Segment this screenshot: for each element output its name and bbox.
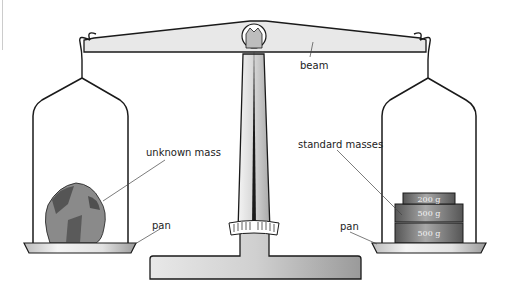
label-pan-right: pan <box>340 222 359 232</box>
base <box>150 231 361 279</box>
unknown-mass-rock <box>45 183 105 243</box>
left-pan <box>24 243 136 253</box>
balance-diagram: 200 g 500 g 500 g <box>0 0 507 293</box>
weight-500g-label-bottom: 500 g <box>418 229 441 238</box>
label-pan-left: pan <box>152 221 171 231</box>
column <box>238 40 270 231</box>
label-unknown-mass: unknown mass <box>146 148 221 158</box>
weight-200g-label: 200 g <box>418 195 441 204</box>
weight-500g-label-top: 500 g <box>418 209 441 218</box>
right-pan <box>372 243 486 253</box>
label-standard-masses: standard masses <box>298 140 383 150</box>
label-beam: beam <box>300 61 328 71</box>
standard-masses: 200 g 500 g 500 g <box>395 193 463 243</box>
pointer-scale <box>229 221 279 236</box>
